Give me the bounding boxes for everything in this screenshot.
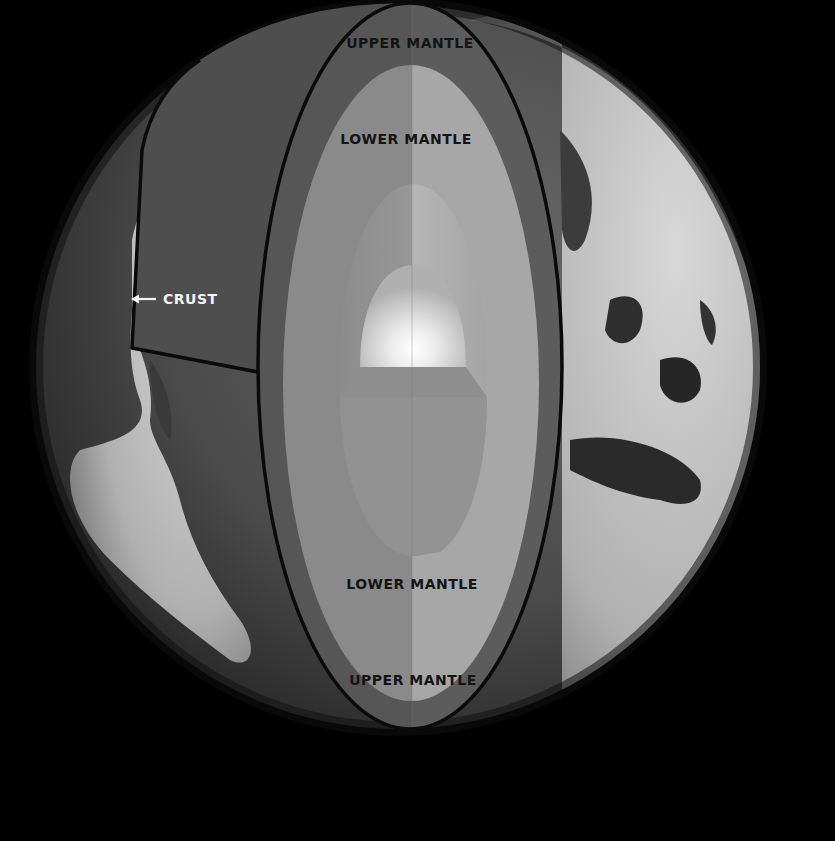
label-lower-mantle-bottom: LOWER MANTLE bbox=[346, 576, 478, 592]
label-upper-mantle-bottom: UPPER MANTLE bbox=[349, 672, 477, 688]
label-crust: CRUST bbox=[163, 291, 218, 307]
arrow-left-icon bbox=[131, 292, 157, 306]
crust-callout: CRUST bbox=[131, 291, 218, 307]
earth-cutaway-graphic bbox=[0, 0, 835, 841]
label-upper-mantle-top: UPPER MANTLE bbox=[346, 35, 474, 51]
earth-cutaway-diagram: UPPER MANTLE LOWER MANTLE CRUST LOWER MA… bbox=[0, 0, 835, 841]
label-lower-mantle-top: LOWER MANTLE bbox=[340, 131, 472, 147]
